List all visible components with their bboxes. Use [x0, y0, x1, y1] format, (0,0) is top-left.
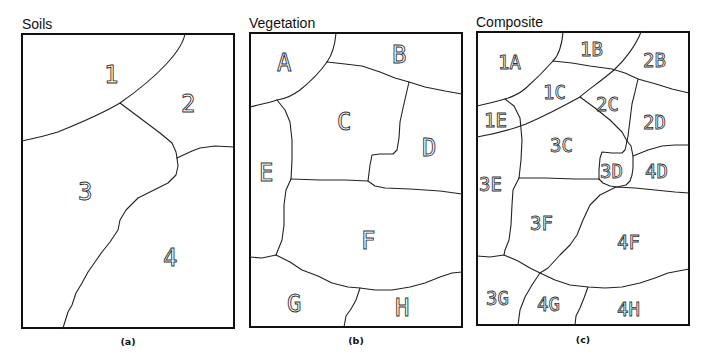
- comp-zone-2d-label: 2D: [643, 111, 666, 133]
- composite-map: 1A 1B 2B 1C 2C 1E 2D 3C 3D 4D 3E 3F 4F 3…: [477, 32, 689, 325]
- comp-zone-3e-label: 3E: [479, 173, 502, 195]
- comp-boundary-3c-3f: [519, 178, 599, 179]
- soils-caption: (a): [120, 337, 135, 347]
- veg-boundary-c-d: [368, 82, 409, 181]
- veg-boundary-a-b: [327, 33, 336, 62]
- comp-zone-2b-label: 2B: [643, 49, 666, 71]
- comp-boundary-4d-4f: [616, 187, 689, 193]
- map-overlay-diagram: 1 2 3 4 A B C D E F G H: [0, 0, 705, 358]
- soil-zone-3-label: 3: [78, 178, 92, 206]
- comp-boundary-1a-1b: [553, 32, 563, 61]
- soil-boundary-2-4: [177, 146, 234, 158]
- comp-zone-1e-label: 1E: [484, 109, 507, 131]
- comp-boundary-c-d: [627, 79, 638, 141]
- soil-zone-1-label: 1: [104, 61, 118, 89]
- comp-zone-1a-label: 1A: [498, 51, 521, 73]
- veg-zone-d-label: D: [422, 134, 436, 162]
- soils-map-frame: [22, 34, 234, 328]
- veg-zone-g-label: G: [287, 290, 301, 318]
- veg-zone-f-label: F: [361, 227, 375, 255]
- veg-zone-e-label: E: [259, 159, 273, 187]
- veg-boundary-e-f: [276, 179, 291, 255]
- comp-zone-3g-label: 3G: [486, 287, 509, 309]
- composite-caption: (c): [576, 335, 590, 345]
- comp-zone-4d-label: 4D: [645, 160, 668, 182]
- soil-zone-2-label: 2: [181, 90, 195, 118]
- comp-zone-1b-label: 1B: [580, 38, 603, 60]
- comp-boundary-b-cd: [553, 61, 689, 93]
- veg-zone-b-label: B: [392, 41, 406, 69]
- veg-zone-a-label: A: [277, 49, 292, 77]
- comp-boundary-4g-4h: [575, 287, 588, 325]
- veg-zone-c-label: C: [337, 108, 351, 136]
- veg-zone-h-label: H: [395, 294, 409, 322]
- vegetation-map: A B C D E F G H: [250, 33, 462, 327]
- comp-boundary-3e-3f: [504, 178, 519, 255]
- comp-zone-1c-label: 1C: [543, 81, 566, 103]
- comp-zone-2c-label: 2C: [596, 93, 619, 115]
- comp-zone-4h-label: 4H: [617, 298, 640, 320]
- comp-boundary-c-e: [505, 99, 522, 178]
- veg-boundary-cd-f: [291, 179, 462, 194]
- comp-boundary-3e-3g: [477, 255, 504, 257]
- veg-boundary-f-gh: [276, 255, 462, 290]
- comp-zone-4g-label: 4G: [537, 293, 560, 315]
- comp-boundary-soil-2-4: [633, 145, 689, 156]
- comp-zone-3f-label: 3F: [530, 212, 553, 234]
- soil-zone-4-label: 4: [163, 244, 177, 272]
- veg-boundary-e-g: [250, 255, 276, 258]
- comp-zone-3c-label: 3C: [550, 134, 573, 156]
- soils-map: 1 2 3 4: [22, 34, 234, 328]
- soil-boundary-2-3: [120, 103, 177, 158]
- comp-boundary-soil-3-4: [518, 187, 616, 325]
- veg-boundary-g-h: [344, 288, 360, 327]
- comp-zone-4f-label: 4F: [617, 231, 640, 253]
- comp-boundary-f-gh: [504, 255, 689, 288]
- comp-zone-3d-label: 3D: [600, 160, 623, 182]
- veg-boundary-c-e: [277, 100, 292, 179]
- vegetation-caption: (b): [348, 336, 363, 346]
